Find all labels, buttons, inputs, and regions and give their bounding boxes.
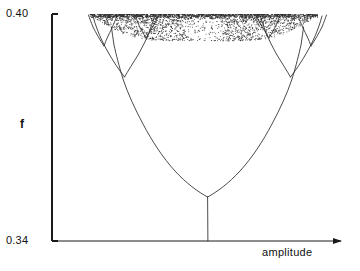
scatter-point — [155, 26, 156, 27]
scatter-point — [177, 24, 178, 25]
scatter-point — [138, 14, 139, 15]
scatter-point — [238, 30, 239, 31]
scatter-point — [210, 37, 211, 38]
scatter-point — [170, 32, 171, 33]
scatter-point — [244, 31, 245, 32]
scatter-point — [249, 31, 250, 32]
scatter-point — [120, 27, 121, 28]
scatter-point — [205, 22, 206, 23]
scatter-point — [133, 34, 134, 35]
scatter-point — [190, 24, 191, 25]
scatter-point — [227, 33, 228, 34]
scatter-point — [109, 16, 110, 17]
scatter-point — [249, 33, 250, 34]
scatter-point — [240, 28, 241, 29]
scatter-point — [134, 21, 135, 22]
scatter-point — [112, 14, 113, 15]
scatter-point — [192, 20, 193, 21]
scatter-point — [163, 17, 164, 18]
scatter-point — [144, 32, 145, 33]
scatter-point — [166, 14, 167, 15]
scatter-point — [187, 36, 188, 37]
scatter-point — [117, 26, 118, 27]
scatter-point — [286, 14, 287, 15]
scatter-point — [136, 22, 137, 23]
scatter-point — [290, 24, 291, 25]
scatter-point — [288, 16, 289, 17]
scatter-point — [226, 37, 227, 38]
scatter-point — [238, 39, 239, 40]
scatter-point — [118, 20, 119, 21]
scatter-point — [269, 25, 270, 26]
scatter-point — [281, 14, 282, 15]
scatter-point — [275, 19, 276, 20]
scatter-point — [156, 14, 157, 15]
scatter-point — [156, 17, 158, 18]
scatter-point — [142, 29, 143, 30]
scatter-point — [223, 39, 224, 40]
scatter-point — [209, 33, 210, 34]
scatter-point — [242, 39, 243, 40]
scatter-point — [232, 30, 233, 31]
scatter-point — [302, 16, 304, 17]
scatter-point — [110, 24, 111, 25]
scatter-point — [215, 15, 217, 16]
scatter-point — [96, 15, 97, 16]
scatter-point — [294, 19, 295, 20]
scatter-point — [153, 26, 154, 27]
scatter-point — [97, 15, 98, 16]
scatter-point — [190, 15, 191, 16]
scatter-point — [242, 14, 244, 15]
scatter-point — [225, 17, 226, 18]
scatter-point — [226, 31, 227, 32]
scatter-point — [259, 21, 260, 22]
scatter-point — [271, 16, 272, 17]
scatter-point — [268, 26, 269, 27]
scatter-point — [272, 18, 273, 19]
scatter-point — [252, 33, 253, 34]
scatter-point — [261, 38, 262, 39]
scatter-point — [279, 28, 280, 29]
scatter-point — [111, 19, 112, 20]
scatter-point — [248, 17, 249, 18]
scatter-point — [267, 17, 268, 18]
scatter-point — [154, 24, 155, 25]
scatter-point — [248, 30, 249, 31]
scatter-point — [220, 36, 221, 37]
scatter-point — [251, 16, 252, 17]
scatter-point — [268, 28, 269, 29]
scatter-point — [283, 26, 284, 27]
scatter-point — [121, 29, 122, 30]
scatter-point — [181, 36, 182, 37]
scatter-point — [179, 33, 180, 34]
scatter-point — [251, 39, 252, 40]
scatter-point — [101, 14, 102, 15]
scatter-point — [251, 38, 252, 39]
scatter-point — [249, 26, 250, 27]
scatter-point — [184, 40, 185, 41]
scatter-point — [211, 26, 212, 27]
scatter-point — [288, 21, 289, 22]
scatter-point — [264, 16, 265, 17]
scatter-point — [247, 32, 248, 33]
scatter-point — [180, 28, 181, 29]
scatter-point — [250, 27, 251, 28]
scatter-point — [133, 23, 134, 24]
scatter-point — [232, 22, 233, 23]
scatter-point — [111, 14, 112, 15]
scatter-point — [190, 39, 191, 40]
scatter-point — [241, 36, 242, 37]
scatter-point — [253, 21, 254, 22]
scatter-point — [133, 14, 134, 15]
scatter-point — [135, 34, 136, 35]
scatter-point — [264, 19, 265, 20]
scatter-point — [225, 30, 226, 31]
scatter-point — [301, 15, 302, 16]
scatter-point — [225, 34, 226, 35]
scatter-point — [143, 14, 145, 15]
scatter-point — [107, 15, 108, 16]
scatter-point — [158, 31, 159, 32]
scatter-point — [241, 32, 242, 33]
scatter-point — [110, 25, 111, 26]
scatter-point — [128, 14, 129, 15]
